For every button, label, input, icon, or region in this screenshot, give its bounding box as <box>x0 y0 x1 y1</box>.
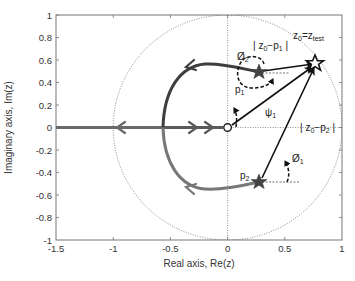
svg-text:-0.6: -0.6 <box>36 190 52 201</box>
dist-z0-p1-label: | z0−p1 | <box>253 40 288 52</box>
svg-text:0: 0 <box>47 122 52 133</box>
y-tick-labels: 1 0.8 0.6 0.4 0.2 0 -0.2 -0.4 -0.6 -0.8 … <box>36 10 52 246</box>
zero-marker <box>224 124 232 132</box>
x-axis-label: Real axis, Re(z) <box>163 258 234 269</box>
svg-text:-0.2: -0.2 <box>36 145 52 156</box>
dist-z0-p2-label: | z0−p2 | <box>300 122 335 134</box>
svg-text:-0.5: -0.5 <box>162 243 178 254</box>
y-axis-label: Imaginary axis, Im(z) <box>3 81 14 174</box>
svg-text:0.2: 0.2 <box>39 100 52 111</box>
svg-text:0: 0 <box>225 243 230 254</box>
svg-text:0.6: 0.6 <box>39 55 52 66</box>
svg-text:-1: -1 <box>109 243 117 254</box>
svg-text:0.5: 0.5 <box>278 243 291 254</box>
x-tick-labels: -1.5 -1 -0.5 0 0.5 1 <box>48 243 345 254</box>
svg-text:0.8: 0.8 <box>39 32 52 43</box>
svg-text:1: 1 <box>47 10 52 21</box>
svg-text:-1.5: -1.5 <box>48 243 64 254</box>
svg-text:-0.8: -0.8 <box>36 212 52 223</box>
svg-text:0.4: 0.4 <box>39 77 52 88</box>
svg-text:1: 1 <box>339 243 344 254</box>
root-locus-chart: 1 0.8 0.6 0.4 0.2 0 -0.2 -0.4 -0.6 -0.8 … <box>0 0 355 281</box>
svg-text:-0.4: -0.4 <box>36 167 52 178</box>
